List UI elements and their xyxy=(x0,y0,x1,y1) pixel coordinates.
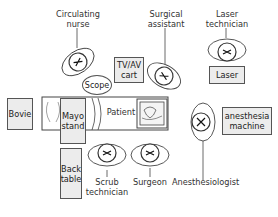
label-line: TV/AV xyxy=(117,60,141,70)
label-line: technician xyxy=(201,20,253,30)
label-surgeon: Surgeon xyxy=(128,178,172,188)
label-laser-technician: Laser technician xyxy=(201,10,253,29)
label-surgical-assistant: Surgical assistant xyxy=(143,10,189,29)
label-line: table xyxy=(61,174,82,184)
anesthesia-machine: anesthesia machine xyxy=(222,107,272,135)
label-line: assistant xyxy=(143,20,189,30)
label-scrub-technician: Scrub technician xyxy=(84,178,130,197)
tv-av-cart: TV/AV cart xyxy=(114,57,144,83)
label-line: cart xyxy=(117,70,141,80)
bovie: Bovie xyxy=(7,98,33,130)
scope: Scope xyxy=(82,75,112,95)
label-anesthesiologist: Anesthesiologist xyxy=(172,178,238,188)
label-line: anesthesia xyxy=(225,111,270,121)
patient-label: Patient xyxy=(104,108,138,118)
laser: Laser xyxy=(209,66,245,84)
label-line: Anesthesiologist xyxy=(172,178,238,188)
label-line: Mayo xyxy=(62,111,85,121)
mayo-stand: Mayo stand xyxy=(60,98,86,144)
label-line: Surgeon xyxy=(128,178,172,188)
label-line: Laser xyxy=(216,70,238,80)
label-line: Scope xyxy=(85,81,109,90)
label-line: machine xyxy=(225,121,270,131)
back-table: Back table xyxy=(60,148,82,199)
label-line: technician xyxy=(84,188,130,198)
label-line: Bovie xyxy=(9,109,32,119)
label-line: nurse xyxy=(55,20,101,30)
label-circulating-nurse: Circulating nurse xyxy=(55,10,101,29)
label-line: Back xyxy=(61,164,82,174)
label-line: stand xyxy=(62,121,85,131)
